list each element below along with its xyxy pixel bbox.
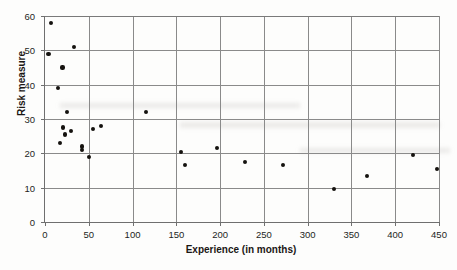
y-axis-tick [41,50,45,51]
y-axis-tick [41,85,45,86]
x-axis-tick [351,222,352,226]
data-point [243,160,247,164]
data-point [72,45,76,49]
x-axis-tick [89,222,90,226]
gridline-horizontal [45,16,439,17]
x-tick-label: 50 [83,229,94,240]
x-axis-label: Experience (in months) [44,244,438,255]
x-tick-label: 300 [300,229,316,240]
y-tick-label: 60 [24,11,35,22]
plot-area: 0501001502002503003504004500102030405060 [44,16,439,223]
data-point [144,110,148,114]
x-tick-label: 450 [431,229,447,240]
gridline-horizontal [45,188,439,189]
y-axis-label: Risk measure [16,24,27,144]
data-point [60,65,64,69]
gridline-horizontal [45,85,439,86]
data-point [58,141,62,145]
x-tick-label: 0 [42,229,47,240]
x-tick-label: 100 [125,229,141,240]
data-point [46,52,50,56]
data-point [281,163,285,167]
data-point [56,86,60,90]
data-point [332,187,336,191]
data-point [63,132,67,136]
data-point [49,21,53,25]
x-tick-label: 350 [344,229,360,240]
y-axis-tick [41,153,45,154]
data-point [65,110,69,114]
y-tick-label: 10 [24,182,35,193]
data-point [99,124,103,128]
x-axis-tick [439,222,440,226]
x-tick-label: 400 [387,229,403,240]
x-axis-tick [395,222,396,226]
data-point [215,146,219,150]
data-point [80,148,84,152]
data-point [183,163,187,167]
x-axis-tick [264,222,265,226]
x-tick-label: 200 [212,229,228,240]
data-point [61,125,65,129]
scatter-plot-figure: 0501001502002503003504004500102030405060… [0,0,457,270]
data-point [69,129,73,133]
x-axis-tick [220,222,221,226]
x-axis-tick [133,222,134,226]
data-point [411,153,415,157]
data-point [91,127,95,131]
x-axis-tick [45,222,46,226]
x-tick-label: 150 [168,229,184,240]
gridline-horizontal [45,119,439,120]
y-axis-tick [41,16,45,17]
x-axis-tick [308,222,309,226]
gridline-vertical [439,16,440,222]
y-axis-tick [41,222,45,223]
y-tick-label: 0 [30,217,35,228]
y-axis-tick [41,188,45,189]
data-point [87,155,91,159]
gridline-horizontal [45,153,439,154]
x-tick-label: 250 [256,229,272,240]
data-point [365,174,369,178]
y-tick-label: 20 [24,148,35,159]
x-axis-tick [176,222,177,226]
y-axis-tick [41,119,45,120]
gridline-horizontal [45,50,439,51]
data-point [179,150,183,154]
